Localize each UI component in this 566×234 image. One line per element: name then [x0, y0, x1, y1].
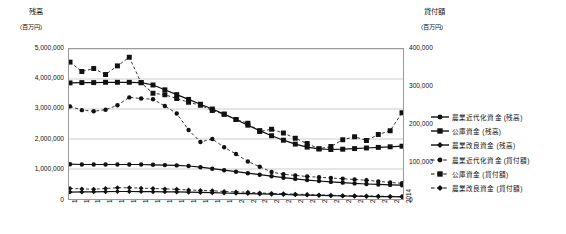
legend-marker-circle-icon [430, 154, 450, 166]
legend-marker-diamond-icon [430, 139, 450, 151]
left-axis-tick-label: 1,000,000 [12, 166, 64, 173]
legend-item[interactable]: 農業改良資金 (貸付額) [430, 181, 566, 195]
right-axis-tick-label: 300,000 [409, 83, 461, 90]
legend-marker-circle-icon [430, 111, 450, 123]
right-axis-tick-label: 400,000 [409, 45, 461, 52]
legend-item[interactable]: 農業近代化資金 (貸付額) [430, 153, 566, 167]
series-line [69, 55, 403, 151]
legend-label: 農業近代化資金 (貸付額) [452, 155, 530, 165]
legend-marker-square-icon [430, 168, 450, 180]
series-line [69, 162, 403, 187]
chart-container: 残高 (百万円) 貸付額 (百万円) 01,000,0002,000,0003,… [0, 0, 566, 234]
series-line [69, 80, 403, 152]
plot-area [68, 48, 404, 200]
legend-label: 公庫資金 (残高) [452, 126, 501, 136]
legend-item[interactable]: 公庫資金 (貸付額) [430, 167, 566, 181]
left-axis-unit: (百万円) [20, 22, 42, 31]
legend-label: 農業近代化資金 (残高) [452, 112, 522, 122]
plot-svg [69, 49, 403, 199]
right-axis-unit: (百万円) [421, 22, 443, 31]
legend-label: 農業改良資金 (貸付額) [452, 183, 522, 193]
legend-marker-square-icon [430, 125, 450, 137]
left-axis-tick-label: 0 [12, 197, 64, 204]
legend-marker-diamond-icon [430, 182, 450, 194]
left-axis-title: 残高 [29, 6, 43, 16]
right-axis-title: 貸付額 [424, 6, 446, 16]
left-axis-tick-label: 5,000,000 [12, 45, 64, 52]
chart-legend: 農業近代化資金 (残高)公庫資金 (残高)農業改良資金 (残高)農業近代化資金 … [430, 110, 566, 195]
right-axis-tick-label: 0 [409, 197, 461, 204]
left-axis-tick-label: 2,000,000 [12, 136, 64, 143]
legend-label: 農業改良資金 (残高) [452, 140, 515, 150]
legend-label: 公庫資金 (貸付額) [452, 169, 508, 179]
legend-item[interactable]: 農業近代化資金 (残高) [430, 110, 566, 124]
left-axis-tick-label: 4,000,000 [12, 75, 64, 82]
x-axis-tick-label: 2014 [406, 189, 412, 203]
legend-item[interactable]: 公庫資金 (残高) [430, 124, 566, 138]
left-axis-tick-label: 3,000,000 [12, 105, 64, 112]
legend-item[interactable]: 農業改良資金 (残高) [430, 138, 566, 152]
